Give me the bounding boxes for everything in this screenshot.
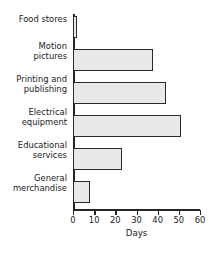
- bar-electrical-equipment[interactable]: [73, 115, 181, 137]
- category-label-printing-and-publishing: Printing and publishing: [0, 74, 67, 94]
- category-label-electrical-equipment: Electrical equipment: [0, 107, 67, 127]
- bar-printing-and-publishing[interactable]: [73, 82, 166, 104]
- category-axis-labels: Food stores Motion pictures Printing and…: [0, 14, 70, 210]
- category-label-food-stores: Food stores: [0, 14, 67, 24]
- x-tick-label-60: 60: [188, 215, 212, 226]
- bar-chart: Food stores Motion pictures Printing and…: [0, 0, 215, 266]
- category-label-general-merchandise: General merchandise: [0, 173, 67, 193]
- x-axis-title: Days: [73, 228, 200, 238]
- plot-area: [73, 14, 200, 210]
- bar-educational-services[interactable]: [73, 148, 122, 170]
- bar-food-stores[interactable]: [73, 16, 77, 38]
- bar-motion-pictures[interactable]: [73, 49, 153, 71]
- bar-general-merchandise[interactable]: [73, 181, 90, 203]
- category-label-motion-pictures: Motion pictures: [0, 41, 67, 61]
- category-label-educational-services: Educational services: [0, 140, 67, 160]
